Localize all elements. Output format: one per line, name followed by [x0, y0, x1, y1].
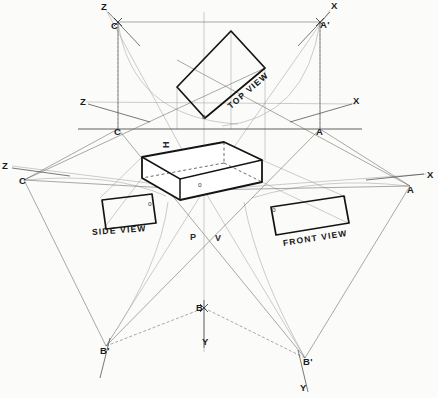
- arc-right-upper: [252, 183, 408, 198]
- label-point-a-mid: A: [316, 127, 323, 137]
- drawing-sheet: TOP VIEW SIDE VIEW FRONT VIEW H P V Z X …: [0, 0, 438, 398]
- axis-line-x-low: [366, 174, 424, 180]
- label-axis-z-mid: Z: [80, 97, 86, 107]
- label-plane-p: P: [190, 233, 197, 242]
- label-point-c-top: C: [111, 21, 118, 31]
- p-plane-edge-close: [106, 308, 204, 346]
- solid-block: [142, 142, 262, 200]
- label-axis-y-right: Y: [300, 383, 307, 393]
- top-view-rect: [177, 31, 265, 118]
- label-point-c-low: C: [19, 176, 26, 186]
- axis-line-x-mid: [290, 104, 352, 122]
- label-axis-z-low: Z: [2, 161, 8, 171]
- label-axis-x-mid: X: [353, 96, 360, 106]
- projector-solid-to-front-a: [262, 160, 346, 197]
- label-point-c-mid: C: [114, 127, 121, 137]
- label-point-a-prime-top: A': [320, 20, 330, 30]
- label-axis-x-top: X: [331, 1, 338, 11]
- label-vertex-o-solid: o: [198, 182, 202, 189]
- projector-solid-to-side-a: [100, 157, 142, 198]
- mid-plane-left: [24, 129, 118, 180]
- mid-plane-right: [320, 129, 410, 186]
- label-point-b-center: B: [196, 303, 203, 313]
- label-plane-v: V: [215, 234, 222, 243]
- label-vertex-o-top-view: o: [202, 114, 206, 121]
- top-view-shape: [177, 31, 265, 118]
- projection-diagram: [0, 0, 438, 398]
- label-axis-z-top: Z: [101, 2, 107, 12]
- label-point-a-low: A: [407, 185, 414, 195]
- label-point-b-prime-right: B': [303, 357, 313, 367]
- axis-lines: [12, 12, 424, 392]
- label-plane-h: H: [162, 141, 171, 148]
- p-plane-edge-lower: [24, 180, 106, 346]
- block-outline: [142, 142, 262, 200]
- label-axis-x-low: X: [427, 170, 434, 180]
- axis-line-z-mid: [88, 104, 150, 122]
- label-vertex-o-front-view: o: [272, 207, 276, 214]
- label-point-b-prime-left: B': [100, 346, 110, 356]
- label-vertex-o-side-view: o: [148, 201, 152, 208]
- v-plane-edge-lower: [305, 186, 410, 358]
- label-axis-y-center: Y: [202, 337, 209, 347]
